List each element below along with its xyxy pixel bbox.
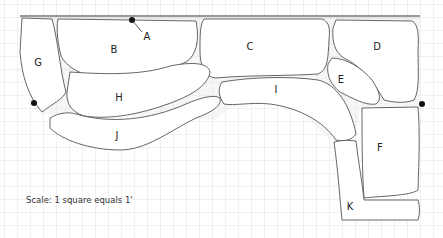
bed-f: F bbox=[362, 107, 419, 198]
bed-label-b: B bbox=[111, 44, 118, 55]
right-marker bbox=[419, 101, 425, 107]
bed-label-e: E bbox=[338, 74, 344, 85]
bed-label-j: J bbox=[115, 130, 119, 141]
garden-plan: G B A C D E H I J F bbox=[0, 0, 443, 238]
bed-label-d: D bbox=[373, 41, 381, 52]
scale-note: Scale: 1 square equals 1' bbox=[26, 195, 133, 205]
bed-c: C bbox=[200, 19, 329, 78]
bed-label-g: G bbox=[34, 57, 42, 68]
bed-label-f: F bbox=[377, 142, 383, 153]
bed-label-i: I bbox=[275, 84, 278, 95]
bed-label-h: H bbox=[115, 92, 123, 103]
bed-label-k: K bbox=[347, 201, 354, 212]
bed-label-c: C bbox=[247, 41, 254, 52]
bed-label-a: A bbox=[144, 31, 151, 42]
left-marker bbox=[31, 100, 37, 106]
